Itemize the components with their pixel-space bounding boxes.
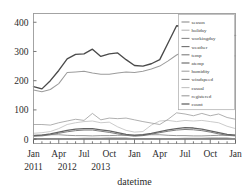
legend-label-registered: registered (192, 94, 212, 99)
y-tick-label: 100 (14, 105, 29, 115)
x-tick-label: Jul (78, 149, 89, 159)
x-year-label: 2013 (91, 162, 110, 172)
x-year-label: 2011 (24, 162, 43, 172)
x-tick-label: Oct (102, 149, 116, 159)
figure-top-text (0, 0, 248, 8)
x-tick-label: Apr (51, 149, 67, 159)
figure: 0100200300400JanAprJulOctJanAprJulOctJan… (0, 0, 248, 193)
x-tick-label: Oct (203, 149, 217, 159)
legend-label-workingday: workingday (192, 36, 216, 41)
x-tick-label: Jan (27, 149, 40, 159)
legend-label-atemp: atemp (192, 61, 205, 66)
legend-label-weather: weather (192, 45, 208, 50)
legend-label-windspeed: windspeed (192, 77, 214, 82)
x-axis-label: datetime (117, 176, 152, 187)
legend-label-humidity: humidity (192, 69, 211, 74)
legend-label-count: count (192, 102, 204, 107)
legend-label-holiday: holiday (192, 28, 207, 33)
x-tick-label: Jan (229, 149, 242, 159)
y-tick-label: 200 (14, 76, 29, 86)
legend: seasonholidayworkingdayweathertempatemph… (179, 15, 235, 110)
y-tick-label: 400 (14, 18, 29, 28)
y-tick-label: 300 (14, 47, 29, 57)
line-chart: 0100200300400JanAprJulOctJanAprJulOctJan… (0, 0, 248, 193)
x-tick-label: Jul (179, 149, 190, 159)
x-year-label: 2012 (58, 162, 77, 172)
x-tick-label: Apr (152, 149, 168, 159)
y-tick-label: 0 (24, 135, 29, 145)
legend-label-season: season (192, 20, 206, 25)
legend-label-temp: temp (192, 53, 202, 58)
x-tick-label: Jan (128, 149, 141, 159)
legend-label-casual: casual (192, 86, 205, 91)
